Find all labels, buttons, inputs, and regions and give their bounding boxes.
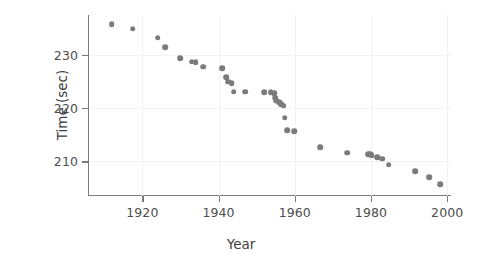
data-point bbox=[130, 26, 136, 32]
x-tick-mark bbox=[219, 196, 220, 202]
data-point bbox=[291, 128, 297, 134]
x-tick-label: 2000 bbox=[431, 205, 463, 220]
y-tick-mark bbox=[82, 55, 88, 56]
data-point bbox=[242, 89, 248, 95]
x-tick-label: 1940 bbox=[202, 205, 234, 220]
data-point bbox=[178, 55, 184, 61]
x-axis-title: Year bbox=[0, 236, 482, 252]
data-point bbox=[386, 162, 392, 168]
data-point bbox=[229, 80, 235, 86]
y-tick-mark bbox=[82, 161, 88, 162]
x-tick-mark bbox=[295, 196, 296, 202]
data-point bbox=[284, 127, 290, 133]
data-point bbox=[109, 21, 115, 27]
data-point bbox=[162, 44, 168, 50]
y-axis-title: Time (sec) bbox=[54, 45, 70, 165]
data-point bbox=[412, 168, 418, 174]
y-tick-mark bbox=[82, 108, 88, 109]
data-point bbox=[380, 156, 386, 162]
data-point bbox=[201, 64, 207, 70]
data-point bbox=[261, 89, 267, 95]
x-tick-mark bbox=[142, 196, 143, 202]
x-tick-label: 1920 bbox=[126, 205, 158, 220]
data-point bbox=[344, 150, 350, 156]
scatter-chart: 210220230 19201940196019802000 Year Time… bbox=[0, 0, 482, 264]
data-point bbox=[317, 144, 323, 150]
data-point bbox=[282, 115, 288, 121]
x-tick-label: 1960 bbox=[279, 205, 311, 220]
data-point bbox=[426, 175, 432, 181]
data-point bbox=[231, 89, 237, 95]
x-tick-label: 1980 bbox=[355, 205, 387, 220]
data-point bbox=[155, 35, 161, 41]
data-point bbox=[438, 181, 444, 187]
plot-area bbox=[89, 15, 451, 196]
data-point bbox=[193, 60, 199, 66]
data-point bbox=[220, 65, 226, 71]
x-tick-mark bbox=[447, 196, 448, 202]
data-point bbox=[281, 103, 287, 109]
x-tick-mark bbox=[371, 196, 372, 202]
